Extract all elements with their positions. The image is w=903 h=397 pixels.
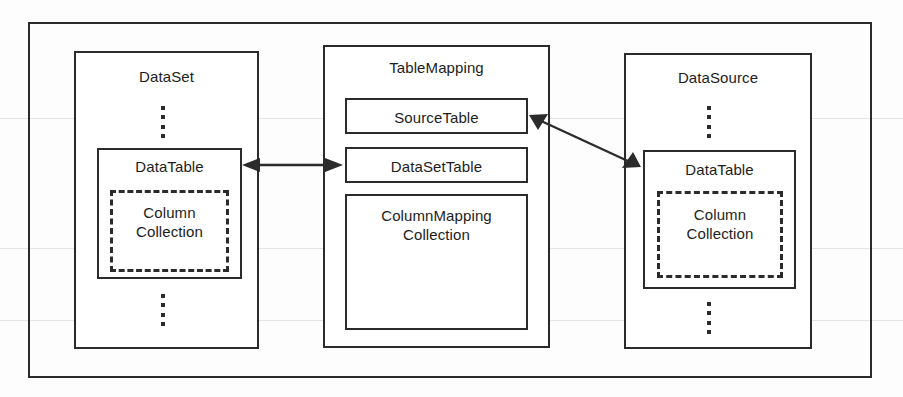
box-source-table-label: SourceTable (347, 109, 526, 127)
ellipsis-dot (161, 322, 165, 326)
box-dataset-table-label: DataSetTable (347, 158, 526, 176)
ellipsis-datasource-bottom (705, 302, 713, 334)
ellipsis-dot (707, 311, 711, 315)
ellipsis-dot (161, 134, 165, 138)
ellipsis-dot (161, 106, 165, 110)
panel-dataset-label: DataSet (76, 68, 257, 86)
box-dataset-table[interactable]: DataSetTable (345, 147, 528, 183)
panel-datasource-label: DataSource (626, 69, 810, 87)
ellipsis-dot (161, 125, 165, 129)
ellipsis-dot (707, 115, 711, 119)
ellipsis-dot (707, 330, 711, 334)
box-source-table[interactable]: SourceTable (345, 98, 528, 134)
ellipsis-dot (707, 321, 711, 325)
ellipsis-dot (161, 294, 165, 298)
box-dataset-datatable-label: DataTable (99, 158, 240, 176)
box-dataset-column-collection[interactable]: Column Collection (110, 190, 229, 272)
ellipsis-dot (707, 106, 711, 110)
ellipsis-dot (707, 302, 711, 306)
ellipsis-dataset-bottom (159, 294, 167, 326)
ellipsis-dataset-top (159, 106, 167, 138)
box-datasource-column-collection[interactable]: Column Collection (657, 191, 783, 278)
ellipsis-datasource-top (705, 106, 713, 138)
ellipsis-dot (707, 125, 711, 129)
box-datasource-column-collection-label: Column Collection (660, 205, 780, 243)
box-dataset-column-collection-label: Column Collection (113, 203, 226, 241)
box-column-mapping-collection-label: ColumnMapping Collection (347, 206, 526, 244)
diagram-canvas: DataSet DataTable Column Collection Tabl… (0, 0, 903, 397)
box-datasource-datatable-label: DataTable (645, 161, 794, 179)
ellipsis-dot (161, 303, 165, 307)
ellipsis-dot (161, 313, 165, 317)
panel-tablemapping-label: TableMapping (325, 59, 548, 77)
box-column-mapping-collection[interactable]: ColumnMapping Collection (345, 194, 528, 330)
ellipsis-dot (707, 134, 711, 138)
ellipsis-dot (161, 115, 165, 119)
